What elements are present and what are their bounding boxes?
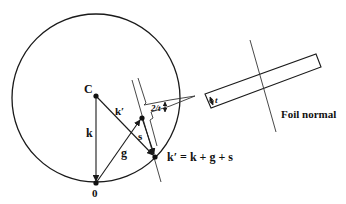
k-prime-point [152,154,157,159]
center-label: C [84,82,93,96]
foil-thickness-arrow [210,97,213,105]
equation-label: k′ = k + g + s [167,150,233,164]
k-label: k [86,126,93,140]
s-label: s [138,130,143,142]
relrod-width-label: 2/t [150,103,161,113]
ewald-sphere-diagram: C 0 k k′ g s 2/t k′ = k + g + s t Foil n… [0,0,346,204]
relrod-right-line [138,78,195,146]
vector-s [142,118,154,154]
origin-label: 0 [92,187,98,199]
foil-normal-line [250,40,276,132]
g-point [139,115,144,120]
foil-thickness-label: t [215,95,218,105]
foil-rectangle [205,54,321,108]
k-prime-label: k′ [115,105,124,117]
foil-normal-label: Foil normal [281,108,336,120]
center-point [93,93,98,98]
origin-point [93,180,98,185]
g-label: g [121,146,127,160]
